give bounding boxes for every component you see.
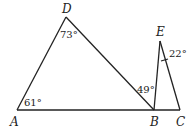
angle-e: 22° [169,48,187,59]
label-b: B [149,115,159,129]
geometry-diagram: A B C D E 61° 73° 49° 22° [0,0,195,131]
segment-be [154,41,160,110]
angle-d: 73° [60,29,78,40]
angle-a: 61° [24,97,42,108]
angle-dba: 49° [137,84,155,95]
label-a: A [9,115,19,129]
segment-db [66,17,154,110]
angle-tick-e [161,59,168,61]
label-c: C [176,115,185,129]
label-d: D [61,2,72,16]
label-e: E [155,25,165,39]
